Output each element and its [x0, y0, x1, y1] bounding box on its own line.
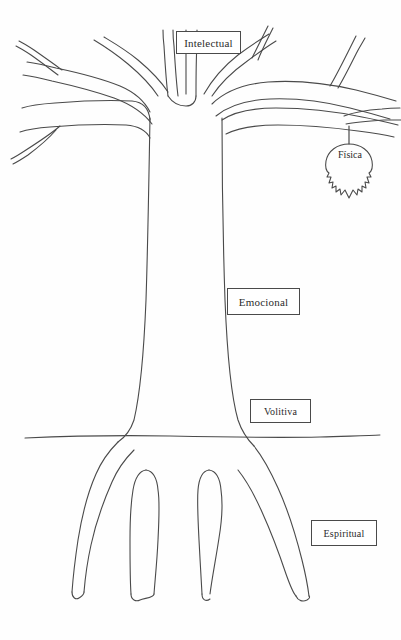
label-text-espiritual: Espiritual — [324, 528, 365, 539]
branch-right-lower-bottom — [226, 125, 394, 137]
branch-left-lower-fork-b — [13, 130, 56, 164]
label-text-intelectual: Intelectual — [184, 37, 233, 49]
root-1-inner — [84, 450, 134, 592]
root-3-left — [198, 470, 209, 594]
root-3-right — [209, 470, 222, 594]
root-2-left — [130, 470, 146, 594]
label-text-fisica: Física — [327, 149, 373, 160]
label-text-volitiva: Volitiva — [264, 406, 297, 417]
label-box-intelectual[interactable]: Intelectual — [176, 31, 241, 54]
branch-left-upper-bottom — [23, 75, 152, 124]
branch-left-lower-fork-a — [11, 126, 60, 159]
tree-diagram-page: Intelectual Emocional Volitiva Espiritua… — [0, 0, 401, 640]
branch-left-lower-top — [22, 101, 150, 120]
label-text-emocional: Emocional — [239, 296, 288, 308]
branch-left-inner-outer — [94, 40, 158, 96]
label-box-espiritual[interactable]: Espiritual — [311, 520, 377, 546]
branch-left-upper-fork-a — [19, 41, 62, 70]
label-box-emocional[interactable]: Emocional — [227, 288, 300, 315]
branch-center-crotch — [168, 96, 196, 106]
branch-right-lower-top — [222, 108, 398, 125]
ground-line — [25, 435, 380, 438]
root-4-outer — [254, 446, 309, 596]
root-3-tip — [202, 594, 210, 600]
root-4-inner — [238, 470, 296, 596]
branch-left-upper-top — [27, 62, 150, 112]
root-2-right — [146, 470, 159, 594]
branch-left-upper-fork-b — [16, 46, 58, 75]
root-4-tip — [296, 596, 310, 601]
root-1-tip — [72, 592, 84, 599]
root-2-tip — [131, 594, 154, 601]
trunk-right-outline — [222, 118, 254, 446]
trunk-left-outline — [118, 118, 150, 442]
label-box-volitiva[interactable]: Volitiva — [250, 399, 311, 423]
branch-left-lower-bottom — [20, 125, 150, 138]
branch-right-middle-top — [212, 81, 396, 104]
root-1-outer — [72, 442, 118, 592]
